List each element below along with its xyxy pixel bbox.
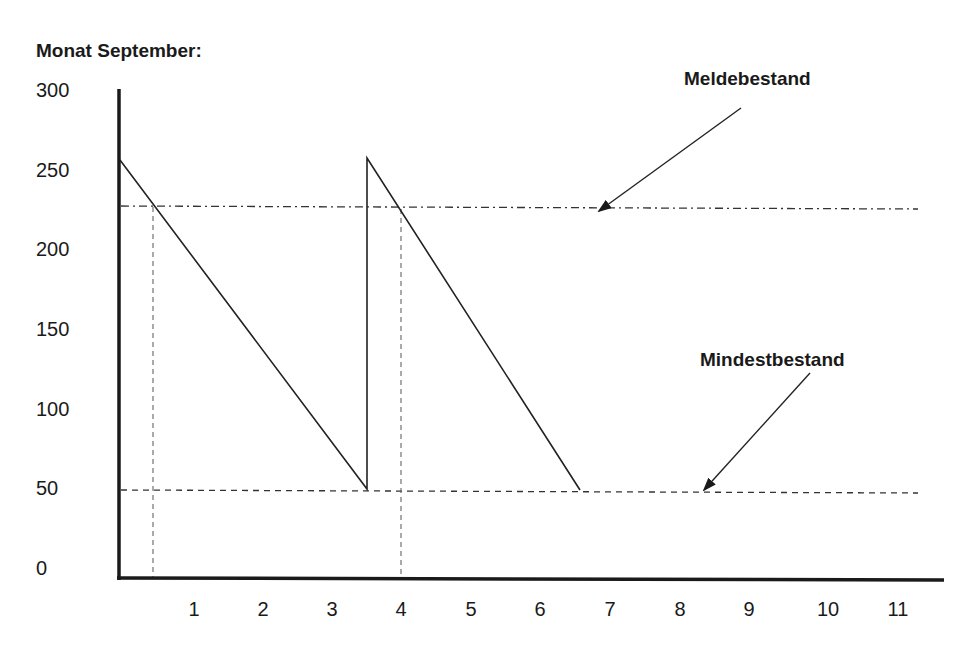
chart-plot-area — [0, 0, 968, 654]
meldebestand-arrow — [599, 108, 741, 211]
x-axis — [117, 578, 944, 580]
mindestbestand-line — [121, 490, 918, 493]
meldebestand-line — [121, 206, 918, 209]
mindestbestand-arrow — [704, 373, 810, 490]
